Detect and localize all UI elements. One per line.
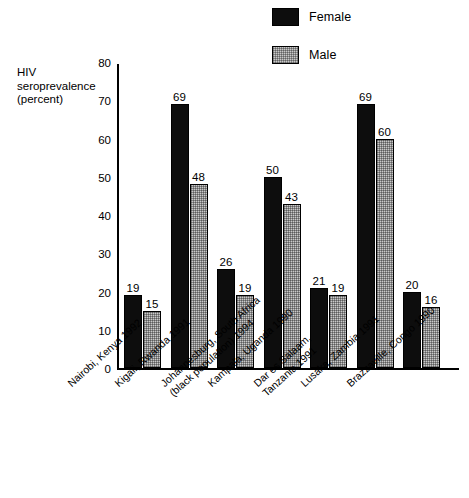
- y-axis-tick-label: 30: [65, 250, 111, 262]
- bar-value-label: 43: [285, 191, 298, 203]
- y-axis-tick-label: 70: [65, 97, 111, 109]
- y-axis-tick-label: 60: [65, 135, 111, 147]
- bar-value-label: 60: [378, 126, 391, 138]
- bar-value-label: 21: [313, 275, 326, 287]
- y-axis-tick-label: 50: [65, 173, 111, 185]
- bar-value-label: 26: [220, 256, 233, 268]
- y-axis-tick-label: 40: [65, 211, 111, 223]
- y-axis-tick-label: 80: [65, 58, 111, 70]
- y-axis-line: [117, 64, 119, 369]
- bar-value-label: 50: [266, 164, 279, 176]
- y-axis-tick-label: 20: [65, 288, 111, 300]
- legend-item-female: Female: [272, 6, 462, 28]
- female-swatch-icon: [272, 8, 299, 26]
- bar-value-label: 19: [332, 282, 345, 294]
- bar-value-label: 69: [359, 91, 372, 103]
- legend-label-female: Female: [309, 10, 351, 24]
- bar-value-label: 20: [406, 279, 419, 291]
- bar-value-label: 19: [239, 282, 252, 294]
- y-axis-tick-label: 10: [65, 326, 111, 338]
- bar-value-label: 19: [127, 282, 140, 294]
- legend-label-male: Male: [309, 48, 337, 62]
- bar-value-label: 69: [173, 91, 186, 103]
- y-axis-title-line-2: seroprevalence: [17, 80, 103, 94]
- bar-value-label: 48: [192, 171, 205, 183]
- bar-value-label: 15: [146, 298, 159, 310]
- hiv-seroprevalence-bar-chart: Female Male HIV seroprevalence (percent)…: [0, 0, 469, 498]
- bar-male: 60: [376, 139, 394, 369]
